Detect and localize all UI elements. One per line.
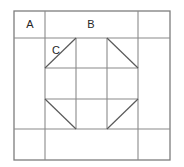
diagonal-top-left <box>45 38 76 68</box>
patch-label-a: A <box>26 18 34 30</box>
diagonal-bottom-left <box>45 99 76 129</box>
quilt-block-diagram: A B C <box>0 0 184 167</box>
patch-label-c: C <box>52 44 60 56</box>
block-drawing-canvas: A B C <box>0 0 184 167</box>
diagonal-top-right <box>107 38 138 68</box>
diagonal-bottom-right <box>107 99 138 129</box>
patch-label-b: B <box>87 18 94 30</box>
outer-border-rect <box>14 11 170 160</box>
